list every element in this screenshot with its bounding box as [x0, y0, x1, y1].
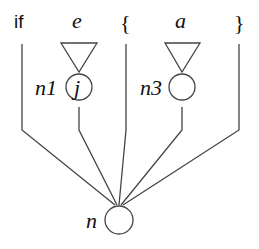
token-a: a	[175, 8, 186, 33]
edge-if	[22, 44, 115, 205]
node-n1-content: j	[71, 75, 80, 100]
token-e: e	[72, 8, 82, 33]
token-open-brace: {	[120, 10, 131, 35]
node-n1-label: n1	[35, 75, 57, 100]
triangle-e	[61, 43, 97, 72]
node-n3-circle	[169, 74, 195, 100]
node-n-label: n	[86, 208, 97, 233]
parse-tree-diagram: if e { a } n1 j n3 n	[0, 0, 259, 249]
token-if: if	[14, 11, 24, 32]
node-n3-label: n3	[140, 75, 162, 100]
edge-open-brace	[119, 44, 126, 205]
triangle-a	[165, 43, 200, 72]
node-n-circle	[105, 206, 133, 234]
edge-n1	[79, 107, 117, 205]
edge-n3	[121, 107, 182, 205]
token-close-brace: }	[234, 10, 245, 35]
